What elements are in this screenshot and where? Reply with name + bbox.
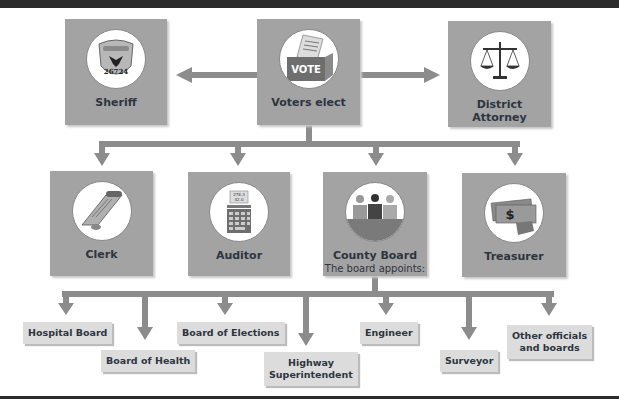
- engineer-tag: Engineer: [360, 322, 418, 344]
- district-attorney-label: District Attorney: [472, 98, 526, 124]
- money-hand-icon: $: [484, 183, 544, 243]
- board-of-elections-tag: Board of Elections: [177, 322, 285, 344]
- district-attorney-box: District Attorney: [448, 21, 551, 127]
- clerk-label: Clerk: [85, 248, 117, 261]
- other-officials-tag: Other officials and boards: [507, 325, 592, 359]
- board-of-health-tag: Board of Health: [101, 350, 195, 372]
- adding-machine-icon: 278.3 42.0: [209, 182, 269, 242]
- scales-of-justice-icon: [470, 31, 530, 91]
- sheriff-label: Sheriff: [95, 96, 136, 109]
- treasurer-label: Treasurer: [484, 250, 543, 263]
- sheriff-badge-icon: 26724: [86, 29, 146, 89]
- sheriff-box: 26724 Sheriff: [65, 19, 167, 125]
- surveyor-tag: Surveyor: [440, 350, 498, 372]
- voters-elect-label: Voters elect: [271, 96, 345, 109]
- treasurer-box: $ Treasurer: [462, 173, 566, 277]
- highway-superintendent-tag: Highway Superintendent: [264, 352, 358, 386]
- county-board-box: County Board The board appoints:: [323, 172, 427, 276]
- ballot-box-icon: VOTE: [279, 29, 339, 89]
- auditor-label: Auditor: [216, 249, 262, 262]
- county-board-label: County Board The board appoints:: [325, 249, 425, 275]
- scroll-document-icon: [72, 181, 132, 241]
- clerk-box: Clerk: [50, 171, 153, 276]
- voters-elect-box: VOTE Voters elect: [257, 19, 360, 125]
- hospital-board-tag: Hospital Board: [23, 322, 112, 344]
- bottom-rule: [0, 396, 619, 399]
- auditor-box: 278.3 42.0 Auditor: [188, 172, 290, 276]
- svg-text:VOTE: VOTE: [291, 64, 321, 75]
- county-board-sublabel: The board appoints:: [325, 263, 425, 274]
- svg-text:26724: 26724: [104, 67, 128, 76]
- board-members-icon: [345, 182, 405, 242]
- svg-text:$: $: [505, 207, 514, 222]
- svg-text:42.0: 42.0: [235, 197, 244, 202]
